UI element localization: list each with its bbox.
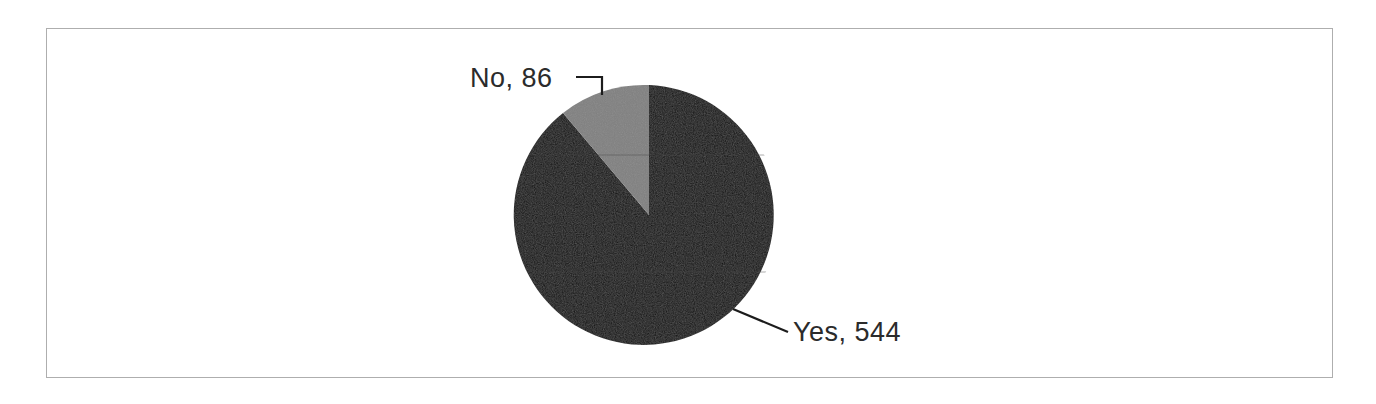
pie-chart-canvas: No, 86 Yes, 544 <box>0 0 1376 404</box>
pie-label-yes: Yes, 544 <box>793 317 901 347</box>
no-leader-line <box>576 77 602 95</box>
pie-slices-group <box>514 85 774 345</box>
pie-label-no: No, 86 <box>470 63 553 93</box>
yes-leader-line <box>733 309 788 332</box>
pie-chart-figure: No, 86 Yes, 544 <box>0 0 1376 404</box>
